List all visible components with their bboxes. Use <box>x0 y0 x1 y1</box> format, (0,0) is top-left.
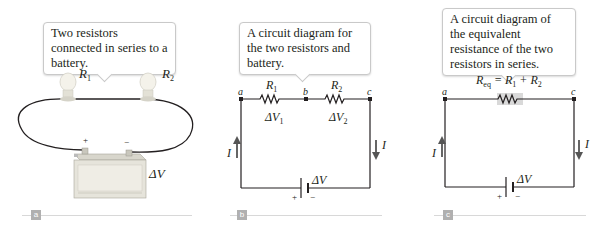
current-arrow-down-icon <box>372 140 380 160</box>
current-arrow-up-icon <box>233 136 241 158</box>
svg-text:a: a <box>442 86 447 97</box>
panel-tag-a: a <box>31 210 41 220</box>
current-arrow-down-icon <box>575 140 583 160</box>
panel-c-equivalent-circuit: A circuit diagram of the equivalent resi… <box>394 0 594 232</box>
node-b-dot <box>304 97 308 101</box>
svg-text:a: a <box>238 86 243 97</box>
svg-text:b: b <box>303 86 308 97</box>
series-circuit-illustration: R1 R2 + − ΔV <box>0 0 200 232</box>
car-battery-icon <box>74 148 146 198</box>
svg-text:+: + <box>497 191 502 201</box>
battery-voltage-label: ΔV <box>148 166 167 181</box>
svg-text:ΔV: ΔV <box>311 173 328 187</box>
svg-text:c: c <box>571 86 576 97</box>
svg-text:I: I <box>381 138 387 152</box>
svg-text:ΔV2: ΔV2 <box>328 110 347 126</box>
svg-text:R2: R2 <box>330 78 342 94</box>
svg-text:I: I <box>226 146 232 160</box>
equivalent-resistance-equation: Req = R1 + R2 <box>475 73 542 89</box>
node-c-dot <box>368 97 372 101</box>
bulb-r2-icon <box>140 73 156 102</box>
panel-divider-a <box>22 215 192 216</box>
panel-a-series-battery-photo: Two resistors connected in series to a b… <box>0 0 200 232</box>
node-c-dot <box>572 97 576 101</box>
svg-text:R2: R2 <box>161 66 174 83</box>
svg-text:I: I <box>431 146 437 160</box>
svg-text:−: − <box>515 191 520 201</box>
svg-text:I: I <box>584 137 590 151</box>
svg-text:R1: R1 <box>265 78 277 94</box>
svg-text:+: + <box>292 192 297 202</box>
panel-divider-c <box>434 215 586 216</box>
svg-text:−: − <box>310 192 315 202</box>
svg-text:−: − <box>124 137 129 147</box>
bulb-r1-icon <box>60 73 76 102</box>
two-resistor-circuit-diagram: a b c R1 R2 ΔV1 ΔV2 I I ΔV + − <box>200 0 400 232</box>
panel-b-circuit-diagram: A circuit diagram for the two resistors … <box>200 0 400 232</box>
equivalent-resistance-circuit-diagram: a c Req = R1 + R2 I I ΔV + − <box>394 0 594 232</box>
svg-text:c: c <box>367 86 372 97</box>
svg-text:ΔV1: ΔV1 <box>264 110 283 126</box>
svg-text:R1: R1 <box>78 66 91 83</box>
panel-tag-c: c <box>443 210 453 220</box>
panel-divider-b <box>230 215 382 216</box>
svg-text:+: + <box>83 135 88 145</box>
node-a-dot <box>239 97 243 101</box>
svg-text:ΔV: ΔV <box>516 172 533 186</box>
panel-tag-b: b <box>237 210 247 220</box>
node-a-dot <box>443 97 447 101</box>
